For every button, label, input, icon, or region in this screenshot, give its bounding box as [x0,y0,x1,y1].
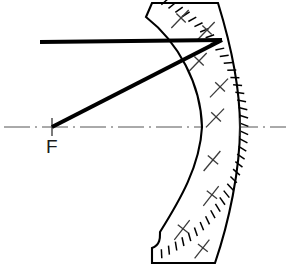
mirror-tick [240,123,248,126]
concave-mirror-figure: F [0,0,288,279]
incident-ray [40,40,222,42]
mirror-tick [224,62,233,63]
mirror-tick [233,85,242,86]
mirror-tick [168,246,169,255]
mirror-tick [240,131,248,135]
optics-diagram-canvas: F [0,0,288,279]
focal-point-label: F [46,136,58,157]
